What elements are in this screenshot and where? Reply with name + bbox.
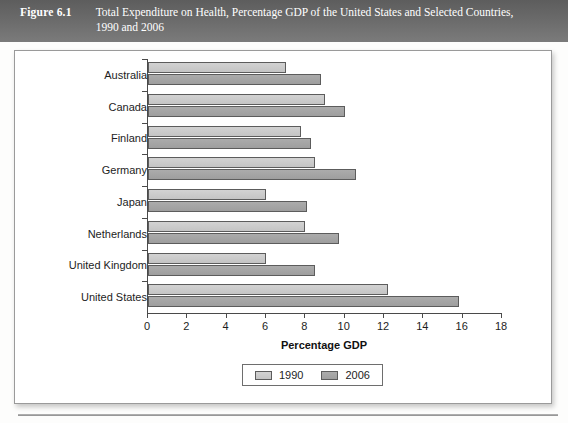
- y-axis-tick: [142, 123, 147, 124]
- x-axis-tick: [304, 313, 305, 318]
- bar-germany-1990[interactable]: [148, 157, 315, 168]
- x-axis-tick-label: 16: [456, 320, 468, 332]
- bar-group: [148, 62, 551, 88]
- x-axis-title: Percentage GDP: [147, 339, 501, 351]
- bar-finland-2006[interactable]: [148, 138, 311, 149]
- bar-netherlands-1990[interactable]: [148, 221, 305, 232]
- bar-finland-1990[interactable]: [148, 126, 301, 137]
- y-axis-tick: [142, 281, 147, 282]
- x-axis-tick: [186, 313, 187, 318]
- chart-row: United Kingdom: [15, 250, 551, 282]
- legend-swatch-2006-icon: [321, 371, 338, 380]
- legend-label-2006: 2006: [345, 369, 369, 381]
- category-label: United States: [81, 291, 147, 303]
- x-axis-tick-label: 2: [183, 320, 189, 332]
- x-axis-tick-label: 18: [495, 320, 507, 332]
- x-axis-ticks: 024681012141618: [147, 313, 501, 339]
- x-axis-tick-label: 0: [144, 320, 150, 332]
- y-axis-tick: [142, 91, 147, 92]
- y-axis-tick: [142, 250, 147, 251]
- bar-canada-2006[interactable]: [148, 106, 345, 117]
- x-axis-tick-label: 10: [338, 320, 350, 332]
- x-axis-tick: [147, 313, 148, 318]
- chart-row: Netherlands: [15, 218, 551, 250]
- y-axis-tick: [142, 59, 147, 60]
- x-axis-tick: [383, 313, 384, 318]
- chart-row: Canada: [15, 91, 551, 123]
- bar-japan-1990[interactable]: [148, 189, 266, 200]
- x-axis-tick: [462, 313, 463, 318]
- figure-header-band: Figure 6.1 Total Expenditure on Health, …: [0, 0, 568, 42]
- x-axis-tick-label: 8: [301, 320, 307, 332]
- figure-number-label: Figure 6.1: [20, 5, 72, 18]
- x-axis-tick-label: 4: [223, 320, 229, 332]
- category-label: United Kingdom: [69, 259, 147, 271]
- bar-canada-1990[interactable]: [148, 94, 325, 105]
- chart-rows: AustraliaCanadaFinlandGermanyJapanNether…: [15, 59, 551, 313]
- bar-germany-2006[interactable]: [148, 169, 356, 180]
- bar-group: [148, 221, 551, 247]
- y-axis-tick: [142, 186, 147, 187]
- x-axis-tick-label: 12: [377, 320, 389, 332]
- category-label: Netherlands: [88, 228, 147, 240]
- bar-japan-2006[interactable]: [148, 201, 307, 212]
- legend-item-2006[interactable]: 2006: [321, 369, 369, 381]
- bar-united-kingdom-1990[interactable]: [148, 253, 266, 264]
- page-bottom-rule: [18, 414, 558, 416]
- category-label: Japan: [117, 196, 147, 208]
- x-axis-tick: [344, 313, 345, 318]
- bar-united-states-1990[interactable]: [148, 284, 388, 295]
- legend-label-1990: 1990: [279, 369, 303, 381]
- bar-group: [148, 284, 551, 310]
- category-label: Finland: [111, 132, 147, 144]
- bar-australia-1990[interactable]: [148, 62, 286, 73]
- category-label: Germany: [102, 164, 147, 176]
- chart-row: Japan: [15, 186, 551, 218]
- legend-swatch-1990-icon: [255, 371, 272, 380]
- chart-row: Germany: [15, 154, 551, 186]
- y-axis-tick: [142, 154, 147, 155]
- figure-header-inner: Figure 6.1 Total Expenditure on Health, …: [20, 5, 554, 34]
- legend-item-1990[interactable]: 1990: [255, 369, 303, 381]
- y-axis-tick: [142, 218, 147, 219]
- bar-united-kingdom-2006[interactable]: [148, 265, 315, 276]
- bar-group: [148, 94, 551, 120]
- bar-united-states-2006[interactable]: [148, 296, 459, 307]
- x-axis-tick-label: 14: [416, 320, 428, 332]
- x-axis-tick: [226, 313, 227, 318]
- bar-netherlands-2006[interactable]: [148, 233, 339, 244]
- x-axis-tick: [501, 313, 502, 318]
- x-axis-tick: [422, 313, 423, 318]
- bar-australia-2006[interactable]: [148, 74, 321, 85]
- figure-page: Figure 6.1 Total Expenditure on Health, …: [0, 0, 568, 423]
- bar-group: [148, 126, 551, 152]
- chart-plate: AustraliaCanadaFinlandGermanyJapanNether…: [14, 50, 552, 404]
- figure-title: Total Expenditure on Health, Percentage …: [96, 5, 526, 34]
- chart-legend: 1990 2006: [242, 364, 383, 386]
- chart-row: Finland: [15, 123, 551, 155]
- x-axis-tick-label: 6: [262, 320, 268, 332]
- bar-group: [148, 253, 551, 279]
- x-axis-tick: [265, 313, 266, 318]
- bar-group: [148, 157, 551, 183]
- chart-row: United States: [15, 281, 551, 313]
- category-label: Canada: [108, 101, 147, 113]
- chart-row: Australia: [15, 59, 551, 91]
- category-label: Australia: [104, 69, 147, 81]
- bar-chart: AustraliaCanadaFinlandGermanyJapanNether…: [15, 51, 551, 403]
- bar-group: [148, 189, 551, 215]
